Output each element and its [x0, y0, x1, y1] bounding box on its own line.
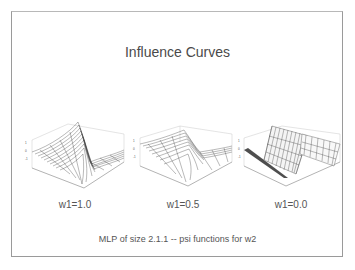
surface-plot-w1-1: 10-1 — [20, 112, 130, 194]
plot-label-w1-1: w1=1.0 — [20, 199, 130, 210]
svg-text:0: 0 — [25, 149, 27, 153]
surface-plot-graphic: 10-1 — [236, 112, 346, 194]
slide-title: Influence Curves — [0, 44, 355, 60]
surface-plot-graphic: 10-1 — [128, 112, 238, 194]
svg-text:-1: -1 — [238, 155, 241, 159]
plot-label-w1-05: w1=0.5 — [128, 199, 238, 210]
slide-caption: MLP of size 2.1.1 -- psi functions for w… — [0, 234, 355, 244]
svg-text:1: 1 — [238, 139, 240, 143]
svg-text:0: 0 — [133, 147, 135, 151]
svg-text:-1: -1 — [25, 157, 28, 161]
svg-text:1: 1 — [133, 139, 135, 143]
svg-text:-1: -1 — [133, 155, 136, 159]
plot-label-w1-0: w1=0.0 — [236, 199, 346, 210]
surface-plot-graphic: 10-1 — [20, 112, 130, 194]
svg-text:0: 0 — [238, 147, 240, 151]
svg-text:1: 1 — [25, 141, 27, 145]
surface-plot-w1-0: 10-1 — [236, 112, 346, 194]
surface-plot-w1-05: 10-1 — [128, 112, 238, 194]
